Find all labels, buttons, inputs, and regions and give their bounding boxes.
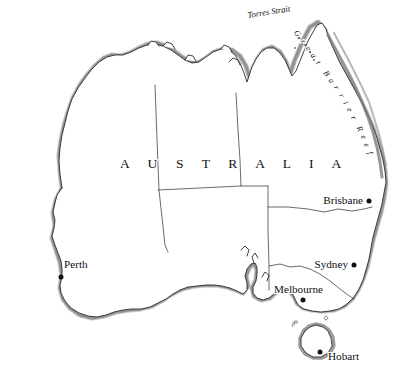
islet-mark: β <box>291 321 295 327</box>
torres-strait-label: Torres Strait <box>247 3 292 20</box>
city-dot-melbourne[interactable] <box>301 298 306 303</box>
bass-strait-islets <box>294 316 328 324</box>
country-label: A U S T R A L I A <box>120 156 349 171</box>
city-dot-perth[interactable] <box>59 275 64 280</box>
city-label-sydney: Sydney <box>314 258 348 270</box>
map-canvas: A U S T R A L I A Torres Strait G r e a … <box>0 0 405 381</box>
city-dot-sydney[interactable] <box>352 263 357 268</box>
australia-map: A U S T R A L I A Torres Strait G r e a … <box>0 0 405 381</box>
city-label-perth: Perth <box>64 258 88 270</box>
city-dot-hobart[interactable] <box>318 350 323 355</box>
city-dot-brisbane[interactable] <box>367 199 372 204</box>
city-label-brisbane: Brisbane <box>323 194 363 206</box>
city-label-hobart: Hobart <box>328 350 360 362</box>
city-label-melbourne: Melbourne <box>274 283 323 295</box>
